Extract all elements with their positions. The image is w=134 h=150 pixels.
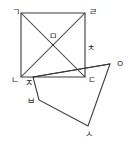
vertex-label-chieut: ㅊ xyxy=(87,44,95,53)
vertex-label-rieul: ㄹ xyxy=(89,8,97,17)
center-point-mieum xyxy=(52,44,54,46)
segment-jieut-to-ieung xyxy=(33,64,110,77)
vertex-label-digeut: ㄷ xyxy=(88,76,96,85)
vertex-label-giyeok: ㄱ xyxy=(12,8,20,17)
vertex-label-ieung: ㅇ xyxy=(116,60,124,69)
vertex-label-nieun: ㄴ xyxy=(11,76,19,85)
vertex-label-bieup: ㅂ xyxy=(27,97,35,106)
tilted-square-shape xyxy=(33,64,110,126)
geometry-figure: ㄱ ㄹ ㅁ ㅊ ㅇ ㄴ ㅈ ㄷ ㅂ ㅅ xyxy=(0,0,134,150)
vertex-label-siot: ㅅ xyxy=(85,130,93,139)
vertex-label-jieut: ㅈ xyxy=(25,79,33,88)
geometry-canvas xyxy=(0,0,134,150)
vertex-label-mieum: ㅁ xyxy=(49,32,57,41)
